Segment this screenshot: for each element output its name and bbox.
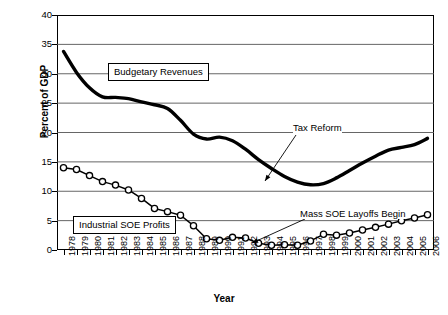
x-tick-label: 1995	[289, 236, 298, 256]
data-point-marker	[385, 221, 391, 227]
x-tick-mark	[77, 250, 78, 255]
x-tick-label: 1991	[237, 236, 246, 256]
x-tick-label: 1996	[302, 236, 311, 256]
data-point-marker	[177, 212, 183, 218]
chart-canvas	[0, 0, 448, 315]
x-tick-mark	[194, 250, 195, 255]
data-point-marker	[138, 195, 144, 201]
x-tick-mark	[259, 250, 260, 255]
x-tick-label: 1999	[341, 236, 350, 256]
x-tick-mark	[142, 250, 143, 255]
data-point-marker	[424, 212, 430, 218]
x-tick-label: 1978	[68, 236, 77, 256]
data-point-marker	[60, 165, 66, 171]
x-tick-mark	[428, 250, 429, 255]
x-tick-label: 1989	[211, 236, 220, 256]
industrial-soe-profits-callout: Industrial SOE Profits	[73, 216, 176, 234]
x-tick-mark	[233, 250, 234, 255]
x-tick-label: 2004	[406, 236, 415, 256]
data-point-marker	[190, 223, 196, 229]
x-tick-mark	[155, 250, 156, 255]
data-point-marker	[372, 224, 378, 230]
x-axis-title: Year	[0, 293, 448, 304]
data-point-marker	[99, 179, 105, 185]
x-tick-label: 2002	[380, 236, 389, 256]
x-tick-mark	[220, 250, 221, 255]
x-tick-mark	[181, 250, 182, 255]
x-tick-label: 2003	[393, 236, 402, 256]
data-point-marker	[411, 215, 417, 221]
x-tick-mark	[324, 250, 325, 255]
x-tick-mark	[389, 250, 390, 255]
data-point-marker	[151, 205, 157, 211]
data-point-marker	[359, 227, 365, 233]
x-tick-mark	[285, 250, 286, 255]
budgetary-revenues-callout: Budgetary Revenues	[108, 63, 209, 81]
x-tick-label: 1980	[94, 236, 103, 256]
x-tick-label: 1993	[263, 236, 272, 256]
x-tick-label: 1986	[172, 236, 181, 256]
x-tick-label: 1984	[146, 236, 155, 256]
data-point-marker	[164, 209, 170, 215]
x-tick-label: 1985	[159, 236, 168, 256]
x-tick-mark	[272, 250, 273, 255]
x-tick-label: 2006	[432, 236, 441, 256]
x-tick-label: 1997	[315, 236, 324, 256]
x-tick-label: 1987	[185, 236, 194, 256]
x-tick-label: 2000	[354, 236, 363, 256]
chart-container: Percent of GDP 0510152025303540 19781979…	[0, 0, 448, 315]
x-tick-mark	[129, 250, 130, 255]
data-point-marker	[86, 172, 92, 178]
x-tick-mark	[90, 250, 91, 255]
x-tick-mark	[103, 250, 104, 255]
x-tick-mark	[350, 250, 351, 255]
x-tick-mark	[415, 250, 416, 255]
data-point-marker	[73, 166, 79, 172]
x-tick-label: 1992	[250, 236, 259, 256]
x-tick-label: 1983	[133, 236, 142, 256]
x-tick-mark	[402, 250, 403, 255]
x-tick-label: 2001	[367, 236, 376, 256]
annotation-arrow-head	[265, 175, 270, 181]
x-tick-label: 1988	[198, 236, 207, 256]
x-tick-mark	[246, 250, 247, 255]
data-point-marker	[125, 187, 131, 193]
x-tick-mark	[207, 250, 208, 255]
x-tick-mark	[168, 250, 169, 255]
x-tick-mark	[311, 250, 312, 255]
x-tick-label: 1981	[107, 236, 116, 256]
x-tick-label: 1994	[276, 236, 285, 256]
x-tick-mark	[376, 250, 377, 255]
x-tick-mark	[64, 250, 65, 255]
x-tick-mark	[298, 250, 299, 255]
data-point-marker	[112, 182, 118, 188]
mass-soe-layoffs-annotation: Mass SOE Layoffs Begin	[300, 208, 405, 219]
x-tick-mark	[363, 250, 364, 255]
x-tick-label: 1982	[120, 236, 129, 256]
x-tick-label: 1990	[224, 236, 233, 256]
tax-reform-annotation: Tax Reform	[293, 122, 342, 133]
x-tick-mark	[337, 250, 338, 255]
x-tick-label: 1979	[81, 236, 90, 256]
x-tick-label: 1998	[328, 236, 337, 256]
x-tick-mark	[116, 250, 117, 255]
x-tick-label: 2005	[419, 236, 428, 256]
